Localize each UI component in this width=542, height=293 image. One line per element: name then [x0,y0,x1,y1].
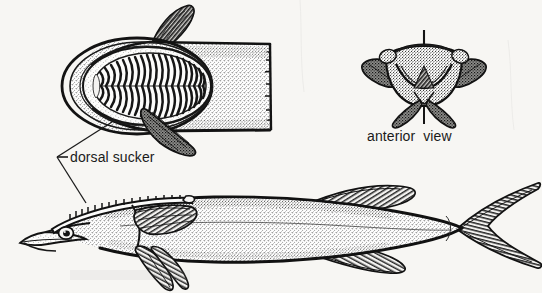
eye [59,227,74,239]
figure-plate: dorsal sucker [0,0,542,293]
anterior-head [379,45,468,106]
caudal-fin [458,183,541,268]
panel-anterior-view [362,30,486,128]
label-anterior-view: anterior view [367,128,452,144]
illustration-canvas: dorsal sucker [0,0,542,293]
label-dorsal-sucker: dorsal sucker [70,149,155,165]
